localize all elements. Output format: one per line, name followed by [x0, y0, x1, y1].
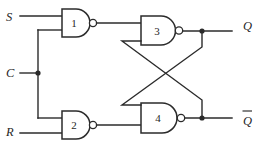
output-label-q: Q: [243, 19, 252, 33]
gate-2-label: 2: [71, 119, 77, 131]
nand-latch-schematic: 1 2 3 4 S C R Q Q: [0, 0, 263, 151]
gate-3-label: 3: [154, 25, 160, 37]
junction-q-tap: [199, 28, 204, 33]
input-label-c: C: [6, 66, 15, 80]
gate-4-inversion-bubble: [177, 114, 184, 121]
junction-c-fanout: [35, 70, 40, 75]
gate-1-inversion-bubble: [89, 19, 96, 26]
gate-4-label: 4: [155, 112, 161, 124]
circuit-diagram: 1 2 3 4 S C R Q Q: [0, 0, 263, 151]
input-label-s: S: [6, 10, 13, 24]
input-label-r: R: [5, 125, 14, 139]
gate-1-label: 1: [71, 17, 77, 29]
gate-3-inversion-bubble: [175, 27, 182, 34]
output-label-qbar: Q: [243, 114, 252, 128]
junction-qbar-tap: [199, 115, 204, 120]
gate-2-inversion-bubble: [89, 121, 96, 128]
